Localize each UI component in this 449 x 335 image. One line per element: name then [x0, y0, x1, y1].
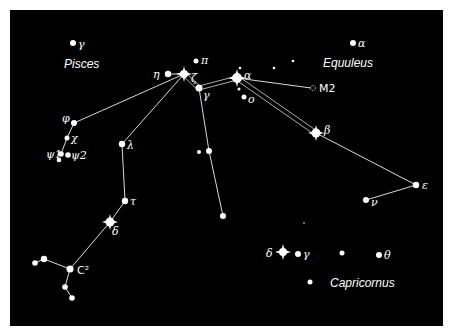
label-c2: C² — [77, 264, 89, 277]
star-small-4 — [292, 60, 295, 63]
label-eta: η — [153, 68, 160, 81]
star-theta-cap — [376, 252, 382, 258]
star-cap-1 — [340, 251, 345, 256]
star-small-3 — [273, 67, 276, 70]
label-capricornus: Capricornus — [330, 276, 395, 290]
label-m2: M2 — [319, 82, 336, 95]
label-tau: τ — [130, 195, 137, 208]
star-pisces-gamma — [70, 40, 76, 46]
label-pi: π — [200, 54, 209, 67]
star-phi — [71, 120, 77, 126]
star-small-2 — [238, 88, 241, 91]
label-omicron: o — [248, 93, 255, 106]
label-pisces-gamma: γ — [78, 38, 85, 51]
label-delta-aqr: δ — [112, 225, 119, 238]
star-omicron — [242, 95, 247, 100]
label-zeta: ζ — [191, 72, 198, 85]
star-chart: γ α η π ζ γ α o M2 β ε ν φ χ ψ1 ψ2 λ τ δ… — [0, 0, 449, 335]
star-c-3 — [62, 284, 68, 290]
star-chi — [65, 136, 70, 141]
star-c2 — [67, 266, 74, 273]
label-epsilon: ε — [422, 179, 428, 192]
label-gamma-cap: γ — [303, 248, 310, 261]
label-lambda: λ — [126, 139, 134, 152]
star-psi2 — [65, 152, 71, 158]
star-mid-1 — [206, 148, 212, 154]
label-alpha-aqr: α — [244, 69, 252, 82]
label-chi: χ — [70, 132, 79, 145]
label-psi2: ψ2 — [71, 149, 87, 162]
star-c-1 — [41, 256, 47, 262]
star-epsilon — [413, 182, 419, 188]
label-equuleus-alpha: α — [358, 37, 366, 50]
star-gamma-cap — [295, 251, 301, 257]
star-gamma-aqr — [196, 85, 203, 92]
star-c-2 — [32, 260, 38, 266]
star-nu — [363, 197, 369, 203]
star-eta — [165, 71, 171, 77]
star-tau — [122, 198, 128, 204]
star-mid-3 — [220, 213, 226, 219]
label-pisces: Pisces — [64, 57, 99, 71]
label-beta: β — [323, 124, 330, 137]
label-psi1: ψ1 — [46, 148, 62, 161]
star-mid-2 — [197, 150, 201, 154]
star-equuleus-alpha — [350, 40, 356, 46]
label-phi: φ — [62, 112, 70, 125]
label-nu: ν — [371, 196, 378, 209]
label-theta-cap: θ — [384, 249, 391, 262]
star-pi — [194, 59, 199, 64]
label-delta-cap: δ — [266, 247, 273, 260]
star-faint — [303, 222, 305, 224]
label-gamma-aqr: γ — [203, 89, 210, 102]
label-equuleus: Equuleus — [323, 56, 373, 70]
star-small-1 — [239, 67, 242, 70]
star-c-4 — [69, 295, 75, 301]
star-lambda — [119, 141, 125, 147]
star-cap-2 — [308, 280, 313, 285]
